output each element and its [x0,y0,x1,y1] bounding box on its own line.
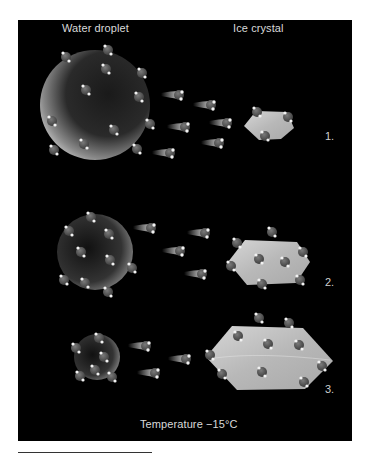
footnote-rule [18,452,152,453]
vapor-molecules-3 [128,341,191,379]
step-3-group [71,312,333,390]
temperature-caption: Temperature −15°C [140,418,238,430]
ice-crystal-header: Ice crystal [233,22,284,34]
step-1-group [40,44,294,160]
step-label-2: 2. [325,276,334,288]
step-2-group [57,211,310,297]
step-label-1: 1. [325,130,334,142]
step-label-3: 3. [325,383,334,395]
vapor-molecules-2 [133,223,210,280]
vapor-molecules-1 [152,90,232,159]
bergeron-process-diagram [0,0,367,454]
water-droplet-header: Water droplet [62,22,129,34]
